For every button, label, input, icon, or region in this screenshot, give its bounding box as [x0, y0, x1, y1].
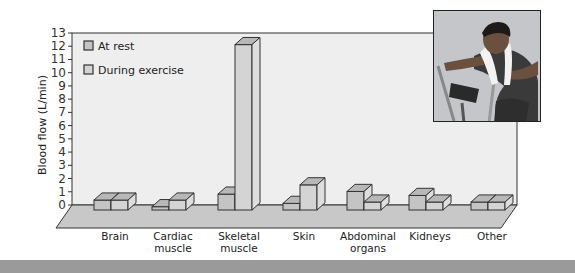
legend-label: At rest — [98, 40, 135, 53]
x-category-label: Kidneys — [409, 230, 450, 242]
person-on-bike-image — [434, 11, 541, 122]
y-tick-label: 7 — [58, 105, 66, 119]
x-category-label: Cardiac — [153, 230, 193, 242]
y-axis-label: Blood flow (L/min) — [36, 75, 49, 175]
bar-during-exercise — [300, 178, 325, 210]
y-tick-label: 12 — [51, 39, 66, 53]
y-tick-label: 4 — [58, 145, 66, 159]
y-tick-label: 10 — [51, 66, 66, 80]
bar-during-exercise — [235, 37, 260, 210]
y-tick-label: 2 — [58, 172, 66, 186]
y-tick-label: 1 — [58, 185, 66, 199]
x-category-label: Other — [477, 230, 507, 242]
exercise-photo — [433, 10, 541, 122]
x-category-label: Abdominal — [340, 230, 396, 242]
legend-swatch — [84, 41, 93, 50]
x-category-label: muscle — [220, 242, 258, 254]
y-tick-label: 9 — [58, 79, 66, 93]
category-labels: BrainCardiacmuscleSkeletalmuscleSkinAbdo… — [101, 230, 507, 254]
x-category-label: Skeletal — [218, 230, 260, 242]
legend-swatch — [84, 65, 93, 74]
y-tick-label: 3 — [58, 158, 66, 172]
y-axis: 012345678910111213 — [51, 26, 72, 212]
x-category-label: muscle — [154, 242, 192, 254]
y-tick-label: 8 — [58, 92, 66, 106]
legend-label: During exercise — [98, 64, 184, 77]
x-category-label: Brain — [101, 230, 129, 242]
y-tick-label: 6 — [58, 119, 66, 133]
y-tick-label: 13 — [51, 26, 66, 40]
y-tick-label: 5 — [58, 132, 66, 146]
y-tick-label: 11 — [51, 52, 66, 66]
y-tick-label: 0 — [58, 198, 66, 212]
x-category-label: Skin — [293, 230, 315, 242]
bottom-divider-band — [0, 260, 575, 273]
x-category-label: organs — [350, 242, 386, 254]
